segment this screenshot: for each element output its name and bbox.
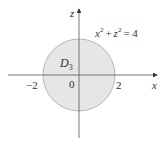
x-axis-label: x <box>151 79 157 91</box>
equation-exp-2: 2 <box>118 26 122 34</box>
origin-label: 0 <box>69 78 75 90</box>
region-letter: D <box>59 56 69 70</box>
equation-plus: + <box>105 27 111 39</box>
tick-label-neg-2: −2 <box>26 79 38 91</box>
equation-rhs: = 4 <box>123 27 138 39</box>
equation-exp-1: 2 <box>100 26 104 34</box>
z-axis-label: z <box>69 7 75 19</box>
region-subscript: 3 <box>69 63 73 72</box>
disk-diagram: z x x2+z2= 4 D3 0 −2 2 <box>0 0 168 145</box>
equation-label: x2+z2= 4 <box>94 26 138 39</box>
tick-label-pos-2: 2 <box>116 79 122 91</box>
